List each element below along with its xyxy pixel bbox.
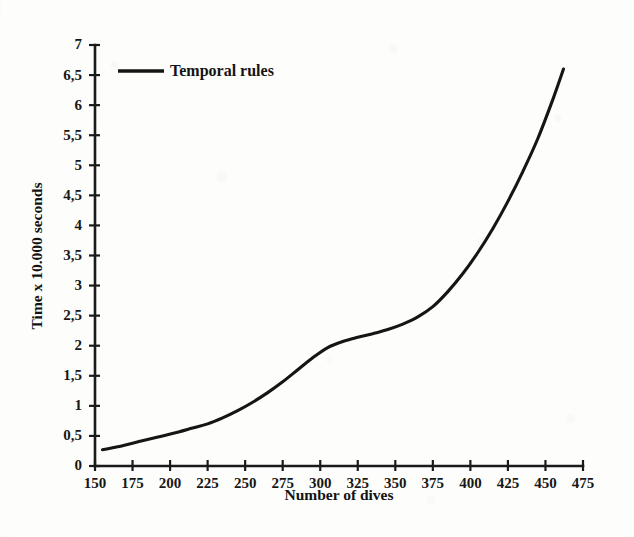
- series-group: [103, 69, 564, 450]
- x-tick-label: 450: [534, 475, 557, 491]
- y-tick-label: 4,5: [63, 187, 82, 203]
- y-tick-label: 3,5: [63, 247, 82, 263]
- series-line-temporal-rules: [103, 69, 564, 450]
- x-tick-label: 425: [497, 475, 520, 491]
- legend-label-temporal-rules: Temporal rules: [170, 62, 274, 80]
- y-tick-label: 5,5: [63, 127, 82, 143]
- chart-legend: Temporal rules: [118, 62, 274, 80]
- y-tick-label: 7: [75, 36, 83, 52]
- y-axis-title: Time x 10.000 seconds: [28, 183, 45, 330]
- chart-page: 00,511,522,533,544,555,566,57 1501752002…: [0, 0, 634, 537]
- y-tick-label: 5: [75, 157, 83, 173]
- y-tick-label: 4: [75, 217, 83, 233]
- y-tick-label: 2,5: [63, 307, 82, 323]
- y-tick-label: 3: [75, 277, 83, 293]
- x-tick-label: 400: [459, 475, 482, 491]
- y-tick-label: 0: [75, 457, 83, 473]
- y-axis-tick-labels: 00,511,522,533,544,555,566,57: [63, 36, 82, 473]
- x-tick-label: 375: [422, 475, 445, 491]
- x-tick-label: 475: [572, 475, 595, 491]
- x-tick-label: 225: [196, 475, 219, 491]
- x-tick-label: 200: [159, 475, 182, 491]
- x-tick-label: 150: [84, 475, 107, 491]
- y-tick-label: 2: [75, 337, 83, 353]
- y-tick-label: 1,5: [63, 367, 82, 383]
- y-tick-label: 6: [75, 97, 83, 113]
- y-tick-label: 6,5: [63, 67, 82, 83]
- x-axis-title: Number of dives: [284, 486, 393, 503]
- y-tick-label: 0,5: [63, 427, 82, 443]
- line-chart: 00,511,522,533,544,555,566,57 1501752002…: [0, 0, 634, 537]
- x-tick-label: 175: [121, 475, 144, 491]
- x-tick-label: 250: [234, 475, 257, 491]
- y-tick-label: 1: [75, 397, 83, 413]
